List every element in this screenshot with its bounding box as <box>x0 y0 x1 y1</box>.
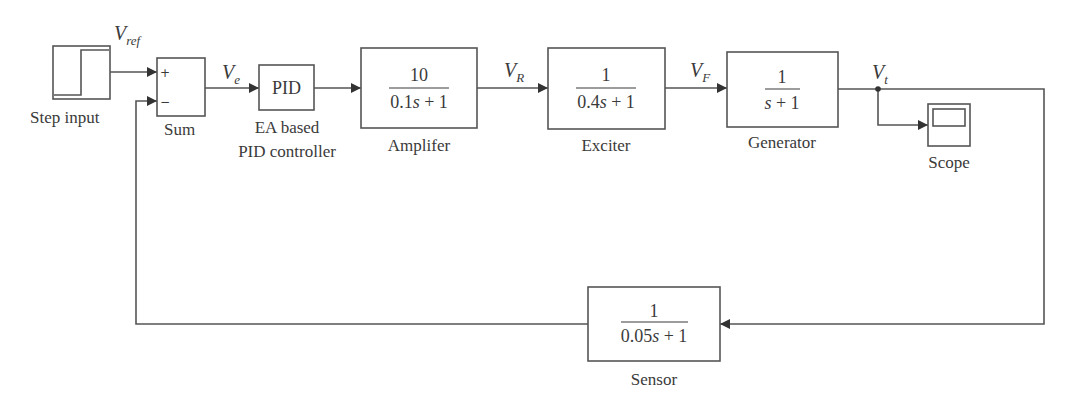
pid-text: PID <box>272 78 301 98</box>
wire-branch-to-scope <box>878 89 928 125</box>
scope-label: Scope <box>928 153 970 172</box>
step-input-label: Step input <box>30 108 100 127</box>
amplifier-numerator: 10 <box>410 65 428 85</box>
sum-label: Sum <box>164 120 195 139</box>
wire-sensor-to-sum <box>136 101 588 324</box>
amplifier-label: Amplifer <box>388 136 451 155</box>
signal-vr: VR <box>504 59 524 85</box>
sum-minus-sign: − <box>160 95 170 109</box>
exciter-label: Exciter <box>581 136 630 155</box>
generator-numerator: 1 <box>778 67 787 87</box>
generator-denominator: s + 1 <box>764 93 799 113</box>
signal-vref: Vref <box>114 22 143 48</box>
amplifier-block[interactable]: 10 0.1s + 1 Amplifer <box>361 48 477 155</box>
sum-plus-sign: + <box>160 66 170 80</box>
sensor-denominator: 0.05s + 1 <box>621 326 688 346</box>
pid-controller-block[interactable]: PID EA based PID controller <box>238 65 336 161</box>
exciter-denominator: 0.4s + 1 <box>577 92 635 112</box>
signal-vf: VF <box>690 59 711 85</box>
pid-label-line2: PID controller <box>238 142 336 161</box>
exciter-numerator: 1 <box>602 65 611 85</box>
block-diagram: Step input Vref + − Sum Ve PID EA based … <box>0 0 1084 405</box>
sensor-label: Sensor <box>631 370 678 389</box>
signal-vt: Vt <box>872 61 888 87</box>
scope-screen-icon <box>933 109 965 126</box>
sensor-numerator: 1 <box>650 301 659 321</box>
generator-label: Generator <box>748 133 816 152</box>
amplifier-denominator: 0.1s + 1 <box>390 92 448 112</box>
junction-dot <box>875 86 881 92</box>
generator-block[interactable]: 1 s + 1 Generator <box>727 52 838 152</box>
scope-block[interactable]: Scope <box>928 104 970 172</box>
signal-ve: Ve <box>222 61 240 87</box>
sum-block[interactable]: + − Sum <box>157 58 205 139</box>
step-input-block[interactable]: Step input <box>30 46 110 127</box>
exciter-block[interactable]: 1 0.4s + 1 Exciter <box>548 48 665 155</box>
pid-label-line1: EA based <box>255 118 320 137</box>
sensor-block[interactable]: 1 0.05s + 1 Sensor <box>588 287 720 389</box>
